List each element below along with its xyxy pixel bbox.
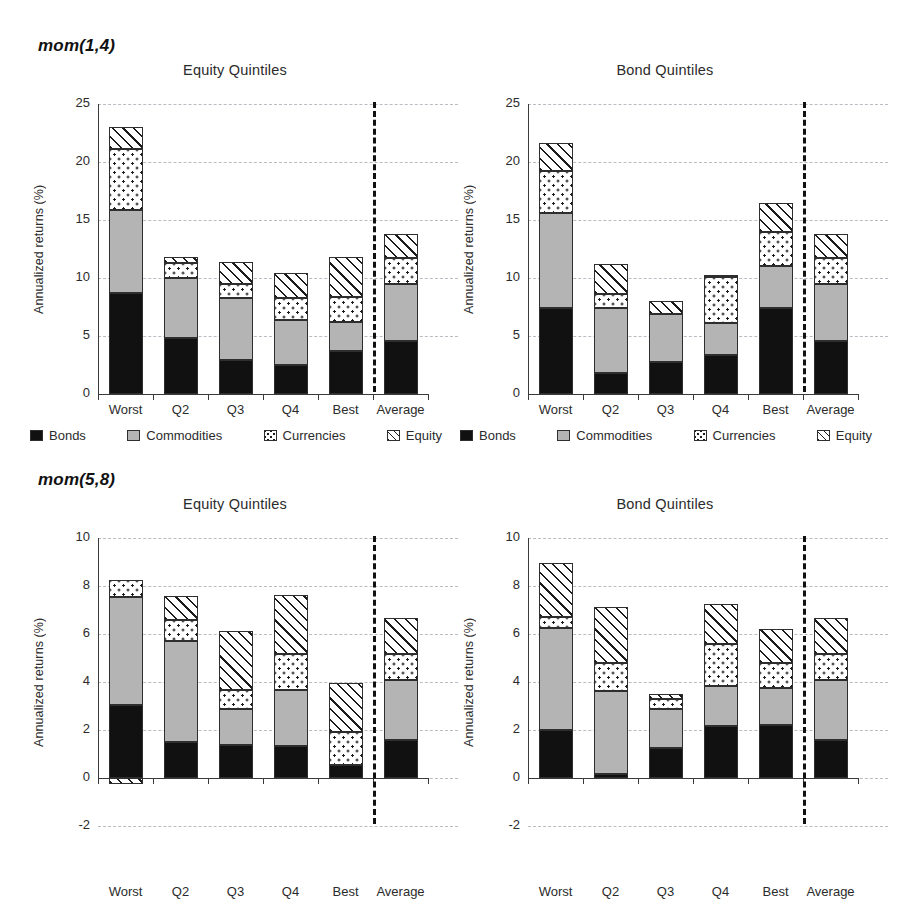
x-tick [373,394,374,400]
bar-segment-commodities [814,284,848,341]
legend-item-commodities[interactable]: Commodities [557,428,652,443]
x-tick [528,778,529,784]
legend-label: Bonds [49,428,86,443]
x-tick [583,778,584,784]
y-tick-label: 8 [56,577,90,592]
legend-item-commodities[interactable]: Commodities [127,428,222,443]
bar-q3[interactable] [649,538,683,826]
bar-q4[interactable] [274,104,308,394]
x-tick [263,778,264,784]
y-tick-label: 25 [486,95,520,110]
x-tick [858,394,859,400]
bar-segment-currencies [759,232,793,267]
bar-segment-bonds [329,765,363,778]
chart-mom58-bond: Bond QuintilesAnnualized returns (%)-202… [450,496,880,896]
y-tick-label: 0 [486,769,520,784]
bar-best[interactable] [329,104,363,394]
x-category-label: Best [318,884,373,899]
bar-segment-equity [649,694,683,699]
legend-label: Commodities [146,428,222,443]
bar-segment-equity [329,683,363,732]
y-axis-label: Annualized returns (%) [32,542,46,822]
bar-q3[interactable] [219,104,253,394]
legend-item-currencies[interactable]: Currencies [264,428,346,443]
legend-item-bonds[interactable]: Bonds [460,428,516,443]
x-category-label: Worst [528,884,583,899]
x-category-label: Q2 [153,402,208,417]
bar-average[interactable] [814,538,848,826]
bar-q4[interactable] [704,104,738,394]
legend-item-bonds[interactable]: Bonds [30,428,86,443]
x-tick [428,778,429,784]
chart-legend: BondsCommoditiesCurrenciesEquity [460,428,872,443]
bar-segment-currencies [539,171,573,213]
bar-segment-currencies [329,732,363,764]
bar-best[interactable] [329,538,363,826]
bar-segment-currencies [384,654,418,679]
bar-q2[interactable] [594,538,628,826]
bar-segment-bonds [109,293,143,394]
bar-best[interactable] [759,104,793,394]
bar-average[interactable] [814,104,848,394]
x-category-label: Q2 [153,884,208,899]
bar-worst[interactable] [109,538,143,826]
x-tick [638,778,639,784]
y-tick-label: 10 [486,529,520,544]
bar-segment-bonds [274,365,308,394]
x-tick [153,394,154,400]
chart-title: Bond Quintiles [450,62,880,78]
bar-q2[interactable] [164,104,198,394]
bar-worst[interactable] [539,538,573,826]
x-tick [318,778,319,784]
x-category-label: Q4 [263,884,318,899]
bar-segment-bonds [704,726,738,778]
bar-average[interactable] [384,538,418,826]
y-tick-label: 5 [486,327,520,342]
bar-best[interactable] [759,538,793,826]
bar-average[interactable] [384,104,418,394]
bar-segment-commodities [539,628,573,729]
x-tick [638,394,639,400]
x-category-label: Q4 [693,402,748,417]
x-tick [153,778,154,784]
legend-item-currencies[interactable]: Currencies [694,428,776,443]
x-tick [748,394,749,400]
bar-segment-commodities [539,213,573,308]
average-divider [803,536,806,824]
bar-segment-commodities [704,323,738,354]
legend-item-equity[interactable]: Equity [387,428,442,443]
bar-worst[interactable] [539,104,573,394]
bar-segment-bonds [594,774,628,778]
bar-segment-equity [109,127,143,149]
y-tick-label: 0 [486,385,520,400]
legend-swatch-equity-icon [387,430,400,441]
x-tick [428,394,429,400]
bar-segment-currencies [109,580,143,597]
x-category-label: Average [803,402,858,417]
x-category-label: Best [748,884,803,899]
bar-q3[interactable] [649,104,683,394]
legend-swatch-bonds-icon [30,430,43,441]
bar-segment-currencies [649,699,683,709]
bar-segment-equity [219,262,253,284]
legend-label: Equity [836,428,872,443]
x-category-label: Average [373,884,428,899]
bar-q2[interactable] [594,104,628,394]
bar-q3[interactable] [219,538,253,826]
legend-item-equity[interactable]: Equity [817,428,872,443]
bar-segment-commodities [594,691,628,775]
bar-q4[interactable] [274,538,308,826]
bar-q4[interactable] [704,538,738,826]
bar-segment-currencies [164,263,198,278]
bar-segment-commodities [384,284,418,341]
bar-segment-equity [384,234,418,258]
bar-worst[interactable] [109,104,143,394]
bar-segment-equity [164,596,198,620]
bar-segment-currencies [329,297,363,323]
x-category-label: Worst [528,402,583,417]
legend-label: Bonds [479,428,516,443]
bar-segment-commodities [219,709,253,745]
bar-segment-commodities [109,597,143,705]
bar-q2[interactable] [164,538,198,826]
bar-segment-equity [274,273,308,297]
